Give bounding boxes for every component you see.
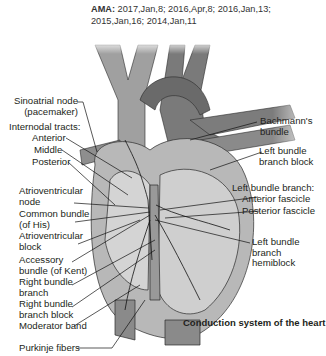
label-internodal-tracts: Internodal tracts:	[9, 122, 80, 133]
label-line: bundle (of Kent)	[19, 266, 87, 277]
heart-body	[91, 139, 254, 345]
label-line: branch block	[259, 157, 313, 168]
label-line: Left bundle	[259, 146, 313, 157]
label-anterior-fascicle: Anterior fascicle	[242, 194, 310, 205]
label-anterior: Anterior	[32, 133, 66, 144]
label-bundle-of-his: Common bundle (of His)	[19, 209, 89, 230]
label-left-bundle-branch: Left bundle branch:	[232, 183, 314, 194]
label-line: Internodal tracts:	[9, 122, 80, 133]
label-moderator-band: Moderator band	[19, 321, 87, 332]
label-sinoatrial-node: Sinoatrial node (pacemaker)	[14, 96, 78, 117]
label-right-bundle-branch: Right bundle branch	[19, 277, 73, 298]
label-posterior-fascicle: Posterior fascicle	[242, 206, 315, 217]
label-middle: Middle	[34, 145, 62, 156]
label-line: node	[19, 197, 83, 208]
label-line: Accessory	[19, 255, 87, 266]
label-line: Right bundle	[19, 299, 73, 310]
label-line: (of His)	[19, 220, 89, 231]
label-line: branch block	[19, 310, 73, 321]
label-line: block	[19, 242, 83, 253]
label-av-node: Atrioventricular node	[19, 186, 83, 207]
label-bundle-of-kent: Accessory bundle (of Kent)	[19, 255, 87, 276]
label-line: Atrioventricular	[19, 231, 83, 242]
label-line: Right bundle	[19, 277, 73, 288]
label-left-bundle-hemiblock: Left bundle branch hemiblock	[252, 237, 299, 269]
label-av-block: Atrioventricular block	[19, 231, 83, 252]
label-left-bundle-branch-block: Left bundle branch block	[259, 146, 313, 167]
label-line: (pacemaker)	[14, 107, 78, 118]
label-purkinje-fibers: Purkinje fibers	[19, 343, 80, 354]
label-right-bundle-branch-block: Right bundle branch block	[19, 299, 73, 320]
label-line: Sinoatrial node	[14, 96, 78, 107]
label-line: Atrioventricular	[19, 186, 83, 197]
label-posterior: Posterior	[32, 157, 70, 168]
label-line: Left bundle	[252, 237, 299, 248]
figure-caption: Conduction system of the heart	[183, 317, 326, 328]
label-line: bundle	[260, 127, 313, 138]
label-line: branch	[19, 288, 73, 299]
label-line: Bachmann's	[260, 116, 313, 127]
label-bachmanns-bundle: Bachmann's bundle	[260, 116, 313, 137]
label-line: hemiblock	[252, 258, 299, 269]
label-line: Common bundle	[19, 209, 89, 220]
